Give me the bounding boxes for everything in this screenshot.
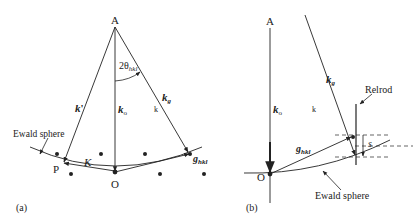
panel-b: A O ko k kg ghkl Relrod s Ewald sphere (… xyxy=(244,15,413,214)
point-A-b: A xyxy=(266,15,274,27)
relrod-label: Relrod xyxy=(365,84,392,95)
point-A-a: A xyxy=(111,14,119,26)
ewald-label-b: Ewald sphere xyxy=(315,190,370,201)
panel-b-label: (b) xyxy=(246,202,258,214)
vector-k-prime xyxy=(64,27,115,162)
label-k-plain-b: k xyxy=(312,105,316,114)
relrod-pointer xyxy=(360,94,372,104)
point-P: P xyxy=(53,163,59,175)
vector-g-hkl-b xyxy=(270,137,351,174)
dashed-guides xyxy=(335,135,413,157)
vector-g-hkl xyxy=(115,154,189,172)
angle-arc xyxy=(115,72,140,81)
ewald-diagram: A O P 2θhkl k' ko kg k K ghkl Ewald sphe… xyxy=(0,0,413,224)
ewald-label-a: Ewald sphere xyxy=(13,129,64,139)
reciprocal-point-b xyxy=(351,135,355,139)
origin-point-b xyxy=(268,172,273,177)
label-k-g-b: kg xyxy=(326,73,336,87)
label-k-plain-a: k xyxy=(154,105,158,114)
angle-label: 2θhkl xyxy=(119,60,137,73)
ewald-pointer-a xyxy=(40,138,48,154)
label-k-o-b: ko xyxy=(273,103,283,117)
label-K: K xyxy=(83,156,92,168)
label-k-g-a: kg xyxy=(162,91,172,105)
panel-a: A O P 2θhkl k' ko kg k K ghkl Ewald sphe… xyxy=(13,14,207,214)
label-k-prime: k' xyxy=(75,102,84,114)
ewald-pointer-b xyxy=(323,171,341,190)
s-label: s xyxy=(368,138,372,149)
panel-a-label: (a) xyxy=(16,202,27,214)
point-O-a: O xyxy=(111,178,119,190)
label-k-o-a: ko xyxy=(118,103,128,117)
label-g-hkl-b: ghkl xyxy=(295,143,310,156)
point-O-b: O xyxy=(257,171,265,183)
vector-k-g xyxy=(115,27,188,152)
label-g-hkl-a: ghkl xyxy=(192,153,207,166)
vector-k-g-b xyxy=(305,15,355,155)
